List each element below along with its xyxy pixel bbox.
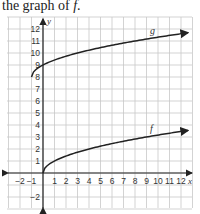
curve-g [32,33,188,77]
x-tick-label: 1 [52,176,57,186]
x-tick-label: 5 [98,176,103,186]
x-axis-label: x [187,176,192,186]
x-tick-label: 11 [165,176,174,186]
y-tick-label: 7 [35,84,40,94]
x-tick-label: 8 [133,176,138,186]
x-tick-label: 12 [176,176,186,186]
x-tick-label: 3 [75,176,80,186]
y-tick-label: 12 [31,24,41,34]
y-tick-label: 10 [31,48,41,58]
x-tick-label: 4 [87,176,92,186]
x-tick-label: 10 [153,176,163,186]
y-tick-label: 4 [35,120,40,130]
function-graph: −2−1123456789101112−2123456789101112xyfg [0,0,200,214]
curve-label-g: g [150,25,155,36]
y-tick-label: 5 [35,108,40,118]
curve-label-f: f [150,123,154,134]
y-tick-label: 2 [35,144,40,154]
y-tick-label: 11 [31,36,40,46]
x-tick-label: 6 [110,176,115,186]
y-tick-label: 8 [35,72,40,82]
x-tick-label: −1 [27,176,37,186]
y-tick-label: 1 [35,156,40,166]
y-axis-label: y [46,16,51,26]
x-tick-label: 7 [121,176,126,186]
y-tick-label: −2 [30,192,40,202]
x-tick-label: 2 [64,176,69,186]
x-tick-label: −2 [15,176,25,186]
x-tick-label: 9 [144,176,149,186]
y-tick-label: 3 [35,132,40,142]
y-tick-label: 6 [35,96,40,106]
